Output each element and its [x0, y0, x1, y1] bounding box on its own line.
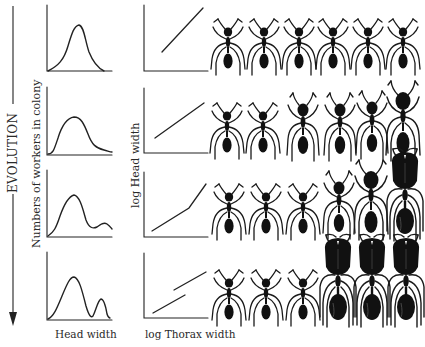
- ant-media-icon: [323, 171, 355, 239]
- ant-media-icon: [356, 91, 388, 159]
- ant-minor-icon: [210, 103, 244, 159]
- ant-media-icon: [324, 93, 356, 161]
- ant-minor-icon: [249, 184, 283, 240]
- ant-minor-icon: [247, 19, 281, 75]
- ant-row-stage-3: [212, 148, 423, 241]
- ant-major-icon: [354, 160, 388, 240]
- allometry-y-axis-label: log Head width: [129, 123, 142, 208]
- ant-minor-icon: [282, 19, 316, 75]
- ant-soldier-icon: [387, 148, 423, 241]
- freq-plot-stage-1: [47, 5, 112, 71]
- ant-soldier-icon: [354, 234, 390, 327]
- ant-minor-icon: [286, 184, 320, 240]
- freq-plot-stage-4: [47, 252, 112, 320]
- ant-minor-icon: [211, 19, 245, 75]
- ant-minor-icon: [286, 270, 320, 326]
- arrow-down-icon: [9, 312, 17, 326]
- freq-plot-stage-3: [47, 170, 112, 237]
- ant-soldier-icon: [320, 234, 356, 327]
- allometry-x-axis-label: log Thorax width: [145, 328, 235, 340]
- ant-minor-icon: [316, 19, 350, 75]
- allometry-plot-stage-4: [144, 253, 208, 318]
- ant-soldier-icon: [388, 234, 424, 327]
- ant-row-stage-2: [210, 81, 420, 161]
- ant-minor-icon: [351, 19, 385, 75]
- ant-row-stage-4: [212, 234, 424, 327]
- allometry-plot-stage-1: [144, 5, 208, 71]
- freq-plot-stage-2: [47, 87, 112, 155]
- ant-minor-icon: [212, 270, 246, 326]
- allometry-plot-stage-2: [144, 88, 208, 153]
- evolution-label: EVOLUTION: [6, 113, 20, 193]
- caste-evolution-figure: EVOLUTION Numbers of workers in colony l…: [0, 0, 425, 347]
- ant-row-stage-1: [211, 19, 420, 75]
- ant-minor-icon: [249, 270, 283, 326]
- allometry-plot-stage-3: [144, 172, 208, 237]
- ant-media-icon: [287, 93, 319, 161]
- ant-minor-icon: [246, 103, 280, 159]
- ant-minor-icon: [386, 19, 420, 75]
- frequency-plots: [47, 5, 112, 320]
- freq-y-axis-label: Numbers of workers in colony: [30, 80, 43, 248]
- freq-x-axis-label: Head width: [55, 328, 117, 340]
- figure-graphics: [0, 0, 425, 347]
- allometry-plots: [144, 5, 208, 318]
- ant-minor-icon: [212, 184, 246, 240]
